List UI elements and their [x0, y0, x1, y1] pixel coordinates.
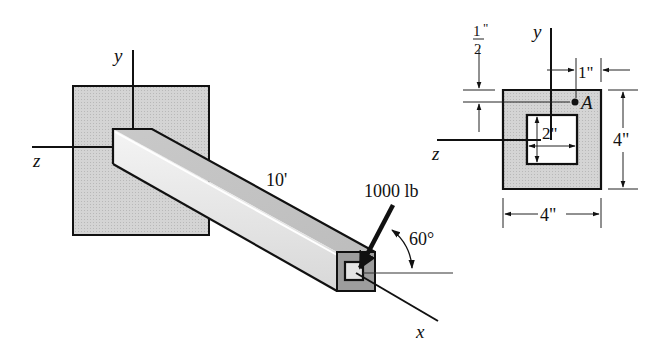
half-inch-numerator: 1	[473, 23, 481, 39]
force-label: 1000 lb	[364, 181, 419, 201]
point-a-marker	[572, 99, 579, 106]
section-z-axis-label: z	[431, 143, 440, 164]
section-y-axis-label: y	[531, 21, 542, 42]
z-axis-label: z	[32, 150, 41, 171]
inner-dimension-label: 2"	[542, 124, 557, 143]
force-arrow	[360, 205, 393, 268]
y-axis-label: y	[112, 45, 123, 66]
width-label: 4"	[540, 205, 556, 225]
height-label: 4"	[613, 130, 629, 150]
half-inch-unit: "	[483, 20, 488, 35]
isometric-beam-view: y z x 10' 1000 lb 60°	[32, 45, 453, 342]
x-axis-line	[356, 273, 438, 321]
beam-length-label: 10'	[266, 170, 287, 190]
cross-section-view: y z A 1 " 2 1" 4" 4"	[431, 20, 638, 228]
point-a-label: A	[579, 92, 593, 113]
beam-diagram: y z x 10' 1000 lb 60°	[0, 0, 667, 350]
angle-label: 60°	[409, 229, 434, 249]
half-inch-denominator: 2	[474, 41, 482, 57]
one-inch-label: 1"	[578, 63, 593, 82]
x-axis-label: x	[415, 321, 425, 342]
